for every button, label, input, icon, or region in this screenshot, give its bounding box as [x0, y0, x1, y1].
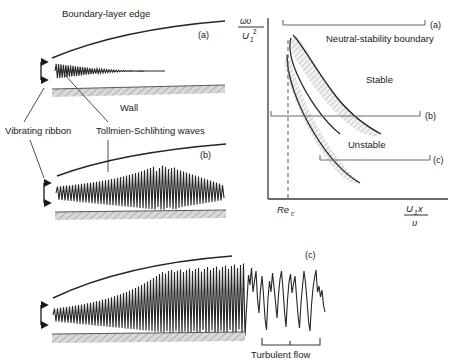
y-axis-label: ωυ U 1 2	[238, 16, 264, 43]
panel-c: (c) Turbulent flow	[41, 250, 325, 360]
y-axis-numerator: ωυ	[240, 16, 252, 26]
wall-c	[52, 332, 245, 343]
y-axis-denominator: U	[242, 30, 249, 41]
figure-boundary-layer-transition: Boundary-layer edge (a) Wall Vibrating r…	[0, 0, 455, 364]
turbulent-flow-label: Turbulent flow	[251, 349, 310, 360]
x-axis-numerator: U	[406, 203, 413, 214]
marker-bracket-a: (a)	[283, 20, 441, 30]
panel-a: Boundary-layer edge (a) Wall	[24, 8, 225, 122]
panel-b-tag: (b)	[200, 150, 211, 160]
leader-ts-waves-a	[64, 74, 108, 122]
panel-c-tag: (c)	[305, 250, 316, 260]
ts-wave-train-c	[53, 264, 325, 336]
wall-b	[55, 210, 226, 220]
leader-vibrating-ribbon-b	[30, 140, 44, 178]
ts-wave-train-b	[56, 166, 224, 210]
unstable-region-label: Unstable	[348, 139, 386, 150]
turbulent-flow-brace	[262, 338, 320, 345]
wall-label: Wall	[120, 102, 138, 113]
y-axis-denominator-sup: 2	[253, 28, 257, 35]
x-axis-numerator-var: x	[417, 203, 424, 214]
ts-waves-label: Tollmien-Schlihting waves	[96, 125, 205, 136]
panel-a-tag: (a)	[198, 30, 209, 40]
marker-a-tag: (a)	[430, 20, 441, 30]
re-c-text: Re	[277, 204, 289, 215]
stable-region-label: Stable	[366, 74, 393, 85]
vibrating-ribbon-label: Vibrating ribbon	[5, 125, 71, 136]
neutral-stability-boundary-label: Neutral-stability boundary	[326, 33, 434, 44]
boundary-layer-edge-label: Boundary-layer edge	[62, 8, 150, 19]
wall-a	[52, 85, 225, 97]
panel-b: (b)	[30, 140, 226, 220]
re-c-subscript: c	[291, 210, 295, 217]
marker-c-tag: (c)	[433, 155, 444, 165]
ts-wave-train-a	[55, 64, 165, 79]
leader-vibrating-ribbon-a	[24, 88, 44, 122]
y-axis-denominator-sub: 1	[250, 36, 254, 43]
figure-canvas: Boundary-layer edge (a) Wall Vibrating r…	[0, 0, 455, 364]
x-axis-denominator: υ	[412, 217, 417, 228]
marker-b-tag: (b)	[425, 111, 436, 121]
stability-diagram: ωυ U 1 2 U 1 x υ Re c Neutral-sta	[238, 16, 448, 228]
x-axis-label: U 1 x υ	[404, 203, 428, 228]
critical-reynolds-label: Re c	[277, 204, 295, 217]
